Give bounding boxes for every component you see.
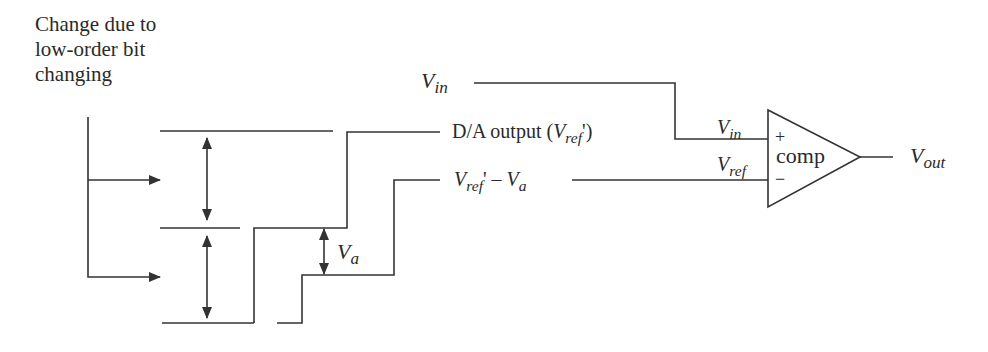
level-lines <box>160 131 333 323</box>
comparator-minus-sign: − <box>775 170 785 188</box>
vref-minus-va-label: Vref' – Va <box>454 169 527 189</box>
da-output-staircase <box>254 132 440 323</box>
vin-label: Vin <box>421 70 448 92</box>
comparator-label: comp <box>776 145 825 167</box>
vout-label: Vout <box>910 145 945 167</box>
annotation-bracket <box>88 117 160 277</box>
vin-comp-label: Vin <box>717 117 741 137</box>
bracket-lower-arrow <box>88 117 160 277</box>
annotation-text: Change due to low-order bit changing <box>35 12 195 87</box>
da-output-label: D/A output (Vref') <box>452 121 592 141</box>
vref-comp-label: Vref <box>717 154 746 174</box>
va-label: Va <box>337 241 359 263</box>
